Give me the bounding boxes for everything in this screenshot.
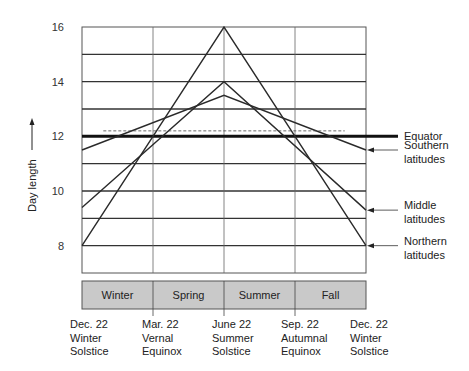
event-type-text: Solstice — [212, 345, 254, 359]
y-tick-label: 8 — [58, 240, 64, 252]
left-arrow-icon — [367, 208, 374, 213]
date-label: Mar. 22VernalEquinox — [142, 318, 182, 359]
southern-latitudes-label-line1: Southern — [404, 139, 449, 151]
event-text: Vernal — [142, 332, 182, 346]
date-text: June 22 — [212, 318, 254, 332]
y-axis-label: Day length — [26, 118, 38, 212]
event-type-text: Equinox — [142, 345, 182, 359]
date-text: Dec. 22 — [350, 318, 389, 332]
legend: EquatorSouthernlatitudesMiddlelatitudesN… — [367, 130, 449, 260]
event-type-text: Solstice — [350, 345, 389, 359]
y-tick-label: 16 — [52, 21, 64, 33]
season-bar: WinterSpringSummerFall — [82, 281, 366, 316]
middle-latitudes-label-line2: latitudes — [404, 213, 445, 225]
season-label-winter: Winter — [102, 289, 134, 301]
date-label: June 22SummerSolstice — [212, 318, 254, 359]
date-label: Dec. 22WinterSolstice — [70, 318, 109, 359]
y-tick-label: 14 — [52, 76, 64, 88]
date-text: Dec. 22 — [70, 318, 109, 332]
northern-latitudes-label-line1: Northern — [404, 235, 447, 247]
northern-latitudes-label-line2: latitudes — [404, 249, 445, 261]
event-text: Summer — [212, 332, 254, 346]
day-length-chart: 810121416 Day length EquatorSouthernlati… — [0, 0, 469, 371]
middle-latitudes-label-line1: Middle — [404, 199, 436, 211]
southern-latitudes-label-line2: latitudes — [404, 153, 445, 165]
event-type-text: Solstice — [70, 345, 109, 359]
left-arrow-icon — [367, 148, 374, 153]
series-lines — [82, 27, 398, 246]
date-text: Mar. 22 — [142, 318, 182, 332]
y-tick-label: 12 — [52, 130, 64, 142]
date-label: Sep. 22AutumnalEquinox — [281, 318, 327, 359]
event-text: Winter — [70, 332, 109, 346]
season-label-fall: Fall — [322, 289, 340, 301]
y-tick-label: 10 — [52, 185, 64, 197]
date-text: Sep. 22 — [281, 318, 327, 332]
y-axis-ticks: 810121416 — [52, 21, 64, 252]
up-arrow-icon — [30, 118, 35, 125]
event-text: Winter — [350, 332, 389, 346]
left-arrow-icon — [367, 243, 374, 248]
y-axis-title: Day length — [26, 159, 38, 212]
plot-grid — [82, 27, 366, 273]
event-text: Autumnal — [281, 332, 327, 346]
season-label-summer: Summer — [239, 289, 281, 301]
event-type-text: Equinox — [281, 345, 327, 359]
date-label: Dec. 22WinterSolstice — [350, 318, 389, 359]
season-label-spring: Spring — [173, 289, 205, 301]
